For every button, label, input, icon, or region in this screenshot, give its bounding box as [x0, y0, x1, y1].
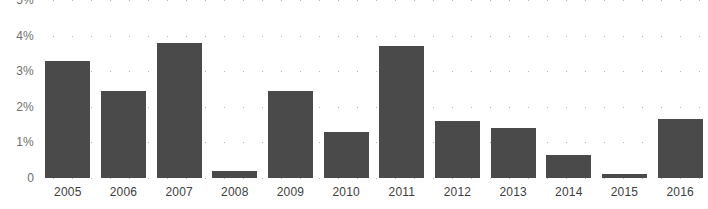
- bar-chart: 01%2%3%4%5% 2005200620072008200920102011…: [0, 0, 708, 209]
- x-tick-label: 2007: [165, 185, 193, 199]
- x-axis: 2005200620072008200920102011201220132014…: [40, 178, 708, 209]
- y-tick-label: 2%: [16, 100, 34, 114]
- x-tick-label: 2013: [499, 185, 527, 199]
- bars-group: [40, 0, 708, 178]
- y-axis: 01%2%3%4%5%: [0, 0, 34, 185]
- bar-2008[interactable]: [212, 171, 257, 178]
- x-tick-label: 2014: [555, 185, 583, 199]
- bar-2016[interactable]: [658, 119, 703, 178]
- x-tick-label: 2015: [611, 185, 639, 199]
- x-tick-label: 2006: [110, 185, 138, 199]
- y-tick-label: 1%: [16, 135, 34, 149]
- x-tick-label: 2005: [54, 185, 82, 199]
- bar-2012[interactable]: [435, 121, 480, 178]
- bar-2009[interactable]: [268, 91, 313, 178]
- y-tick-label: 0: [27, 171, 34, 185]
- bar-2005[interactable]: [45, 61, 90, 178]
- x-tick-label: 2010: [332, 185, 360, 199]
- x-tick-label: 2009: [277, 185, 305, 199]
- y-tick-label: 3%: [16, 64, 34, 78]
- x-tick-label: 2012: [444, 185, 472, 199]
- bar-2013[interactable]: [491, 128, 536, 178]
- y-tick-label: 4%: [16, 29, 34, 43]
- x-tick-label: 2011: [389, 185, 416, 199]
- bar-2007[interactable]: [157, 43, 202, 178]
- bar-2006[interactable]: [101, 91, 146, 178]
- bar-2014[interactable]: [546, 155, 591, 178]
- x-tick-label: 2016: [666, 185, 694, 199]
- bar-2010[interactable]: [324, 132, 369, 178]
- y-tick-label: 5%: [16, 0, 34, 7]
- bar-2011[interactable]: [379, 46, 424, 178]
- x-tick-label: 2008: [221, 185, 249, 199]
- plot-area: [40, 0, 708, 178]
